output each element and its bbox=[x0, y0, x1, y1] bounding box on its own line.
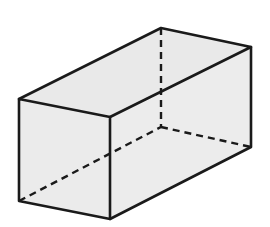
rectangular-prism-diagram bbox=[0, 0, 270, 227]
front-face bbox=[19, 99, 110, 219]
